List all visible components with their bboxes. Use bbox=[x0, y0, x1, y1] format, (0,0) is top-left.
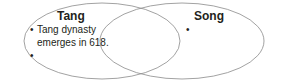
bullet-icon: • bbox=[30, 24, 34, 36]
tang-bullet-1-line-2: emerges in 618. bbox=[37, 37, 109, 49]
song-label: Song bbox=[194, 9, 224, 23]
song-ellipse bbox=[100, 3, 264, 79]
song-bullet-1: • bbox=[186, 24, 196, 36]
tang-bullet-1-line-1: Tang dynasty bbox=[37, 24, 96, 36]
bullet-icon: • bbox=[186, 24, 190, 36]
tang-bullet-2: • bbox=[30, 50, 40, 62]
bullet-icon: • bbox=[30, 50, 34, 62]
tang-label: Tang bbox=[57, 9, 85, 23]
tang-bullet-1: • Tang dynasty emerges in 618. bbox=[30, 24, 110, 50]
